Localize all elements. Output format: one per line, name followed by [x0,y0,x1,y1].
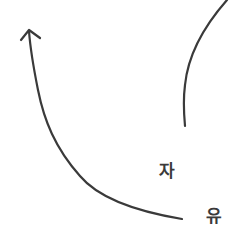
right-arc [184,0,227,126]
diagram-strokes [0,0,239,249]
label-ja: 자 [159,163,175,180]
label-yu: 유 [206,208,222,225]
curved-arrow-body [29,31,182,219]
diagram-canvas: 자 유 [0,0,239,249]
